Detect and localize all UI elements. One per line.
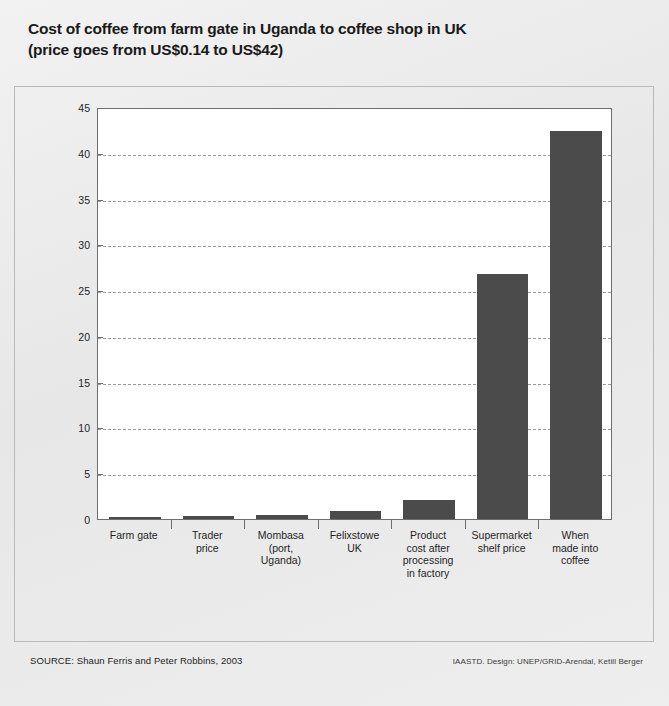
y-axis-tick-label: 45	[64, 103, 90, 114]
plot-area	[97, 108, 612, 520]
source-note: SOURCE: Shaun Ferris and Peter Robbins, …	[30, 655, 242, 666]
x-axis-tick-mark	[391, 520, 392, 529]
gridline	[98, 429, 611, 430]
x-axis-label-line: coffee	[538, 554, 612, 567]
x-axis-tick-mark	[318, 520, 319, 529]
y-axis-tick-mark	[97, 154, 103, 155]
bar	[330, 511, 382, 519]
x-axis-tick-mark	[465, 520, 466, 529]
bar	[403, 500, 455, 519]
page-title: Cost of coffee from farm gate in Uganda …	[28, 18, 643, 60]
x-axis-label-line: made into	[538, 542, 612, 555]
y-axis-tick-label: 5	[64, 469, 90, 480]
credit-note: IAASTD. Design: UNEP/GRID-Arendal, Ketil…	[453, 657, 643, 666]
bar	[109, 517, 161, 519]
chart-page: Cost of coffee from farm gate in Uganda …	[0, 0, 669, 706]
y-axis-tick-mark	[97, 474, 103, 475]
x-axis-tick-mark	[171, 520, 172, 529]
bar	[550, 131, 602, 519]
title-line-2: (price goes from US$0.14 to US$42)	[28, 39, 643, 60]
x-axis-label: Mombasa(port,Uganda)	[244, 529, 318, 567]
x-axis-label-line: Farm gate	[97, 529, 171, 542]
y-axis-tick-label: 40	[64, 148, 90, 159]
x-axis-label: FelixstoweUK	[318, 529, 392, 554]
x-axis-ticks	[97, 520, 612, 529]
y-axis-tick-mark	[97, 337, 103, 338]
bar	[183, 516, 235, 519]
y-axis-tick-mark	[97, 428, 103, 429]
x-axis-labels: Farm gateTraderpriceMombasa(port,Uganda)…	[97, 529, 612, 609]
x-axis-label-line: cost after	[391, 542, 465, 555]
gridline	[98, 338, 611, 339]
y-axis-tick-label: 15	[64, 377, 90, 388]
x-axis-label: Whenmade intocoffee	[538, 529, 612, 567]
gridline	[98, 201, 611, 202]
y-axis-tick-label: 10	[64, 423, 90, 434]
y-axis-tick-mark	[97, 245, 103, 246]
y-axis-tick-label: 30	[64, 240, 90, 251]
x-axis-label-line: Trader	[171, 529, 245, 542]
footer-divider	[14, 641, 654, 642]
x-axis-label-line: (port,	[244, 542, 318, 555]
y-axis-tick-label: 0	[64, 515, 90, 526]
x-axis-label-line: Supermarket	[465, 529, 539, 542]
x-axis-label-line: processing	[391, 554, 465, 567]
x-axis-label-line: Uganda)	[244, 554, 318, 567]
x-axis-label-line: UK	[318, 542, 392, 555]
y-axis-tick-mark	[97, 383, 103, 384]
x-axis-label-line: shelf price	[465, 542, 539, 555]
x-axis-label-line: Felixstowe	[318, 529, 392, 542]
x-axis-tick-mark	[538, 520, 539, 529]
y-axis-tick-mark	[97, 291, 103, 292]
gridline	[98, 246, 611, 247]
x-axis-label: Traderprice	[171, 529, 245, 554]
y-axis-tick-mark	[97, 200, 103, 201]
gridline	[98, 292, 611, 293]
gridline	[98, 384, 611, 385]
bar	[477, 274, 529, 519]
y-axis: 051015202530354045	[60, 108, 90, 520]
y-axis-tick-label: 35	[64, 194, 90, 205]
x-axis-label-line: When	[538, 529, 612, 542]
x-axis-label-line: Product	[391, 529, 465, 542]
x-axis-tick-mark	[244, 520, 245, 529]
x-axis-label: Farm gate	[97, 529, 171, 542]
x-axis-label: Productcost afterprocessingin factory	[391, 529, 465, 579]
gridline	[98, 155, 611, 156]
gridline	[98, 475, 611, 476]
x-axis-label-line: Mombasa	[244, 529, 318, 542]
bar	[256, 515, 308, 519]
y-axis-tick-label: 25	[64, 286, 90, 297]
y-axis-tick-label: 20	[64, 331, 90, 342]
x-axis-label-line: in factory	[391, 567, 465, 580]
x-axis-label: Supermarketshelf price	[465, 529, 539, 554]
x-axis-label-line: price	[171, 542, 245, 555]
title-line-1: Cost of coffee from farm gate in Uganda …	[28, 18, 643, 39]
